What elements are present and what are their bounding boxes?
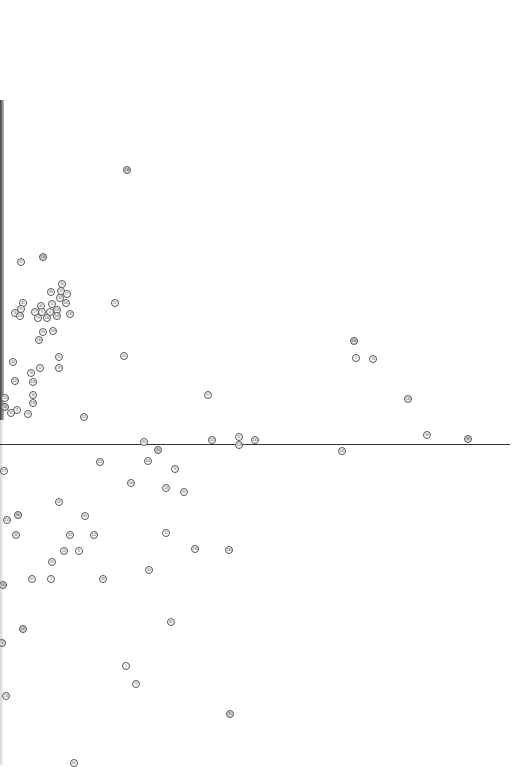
data-point-marker: 2 [47, 575, 55, 583]
data-point-marker: 133 [191, 545, 199, 553]
data-point-marker: 11 [162, 529, 170, 537]
data-point-marker: 95 [226, 710, 234, 718]
data-point-marker: 90 [145, 566, 153, 574]
data-point-marker: 12 [36, 364, 44, 372]
data-point-marker: 76 [369, 355, 377, 363]
data-point-marker: 72 [132, 680, 140, 688]
data-point-marker: 103 [49, 327, 57, 335]
data-point-marker: 38 [12, 531, 20, 539]
horizontal-reference-line [0, 444, 510, 445]
data-point-marker: 119 [235, 441, 243, 449]
data-point-marker: 122 [90, 531, 98, 539]
data-point-marker: 76 [27, 369, 35, 377]
data-point-marker: 110 [1, 394, 9, 402]
data-point-marker: 53 [162, 484, 170, 492]
data-point-marker: 5 [352, 354, 360, 362]
data-point-marker: 98 [464, 435, 472, 443]
data-point-marker: 137 [66, 310, 74, 318]
data-point-marker: 76 [171, 465, 179, 473]
data-point-marker: 76 [24, 410, 32, 418]
data-point-marker: 90 [39, 328, 47, 336]
data-point-marker: 141 [338, 447, 346, 455]
data-point-marker: 146 [43, 314, 51, 322]
data-point-marker: 34 [29, 391, 37, 399]
data-point-marker: 1 [122, 662, 130, 670]
data-point-marker: 40 [180, 488, 188, 496]
data-point-marker: 61 [28, 575, 36, 583]
data-point-marker: 174 [2, 692, 10, 700]
data-point-marker: 106 [53, 312, 61, 320]
data-point-marker: 138 [29, 399, 37, 407]
data-point-marker: 113 [208, 436, 216, 444]
data-point-marker: 58 [55, 498, 63, 506]
data-point-marker: 4 [0, 639, 6, 647]
data-point-marker: 117 [80, 413, 88, 421]
data-point-marker: 8 [75, 547, 83, 555]
data-point-marker: 37 [17, 258, 25, 266]
data-point-marker: 80 [81, 512, 89, 520]
data-point-marker: 19 [55, 364, 63, 372]
data-point-marker: 145 [251, 436, 259, 444]
data-point-marker: 27 [204, 391, 212, 399]
data-point-marker: 154 [350, 337, 358, 345]
data-point-marker: 83 [48, 558, 56, 566]
data-point-marker: 84 [154, 446, 162, 454]
data-point-marker: 86 [14, 511, 22, 519]
data-point-marker: 118 [16, 312, 24, 320]
data-point-marker: 61 [70, 759, 78, 767]
data-point-marker: 23 [60, 547, 68, 555]
data-point-marker: 21 [111, 299, 119, 307]
data-point-marker: 31 [7, 409, 15, 417]
data-point-marker: 177 [0, 467, 8, 475]
data-point-marker: 147 [19, 625, 27, 633]
data-point-marker: 135 [225, 546, 233, 554]
data-point-marker: 161 [62, 299, 70, 307]
data-point-marker: 102 [11, 377, 19, 385]
data-point-marker: 83 [66, 531, 74, 539]
data-point-marker: 100 [127, 479, 135, 487]
data-point-marker: 153 [3, 516, 11, 524]
data-point-marker: 160 [0, 581, 7, 589]
data-point-marker: 89 [47, 288, 55, 296]
data-point-marker: 161 [144, 457, 152, 465]
data-point-marker: 17 [63, 290, 71, 298]
data-point-marker: 39 [99, 575, 107, 583]
data-point-marker: 133 [404, 395, 412, 403]
data-point-marker: 24 [120, 352, 128, 360]
data-point-marker: 127 [96, 458, 104, 466]
data-point-marker: 154 [29, 378, 37, 386]
data-point-marker: 78 [34, 314, 42, 322]
data-point-marker: 168 [123, 166, 131, 174]
data-point-marker: 58 [423, 431, 431, 439]
data-point-marker: 130 [35, 336, 43, 344]
data-point-marker: 44 [9, 358, 17, 366]
data-point-marker: 31 [235, 433, 243, 441]
left-edge-shadow [0, 100, 4, 420]
data-point-marker: 158 [39, 253, 47, 261]
data-point-marker: 95 [140, 438, 148, 446]
data-point-marker: 85 [167, 618, 175, 626]
data-point-marker: 25 [55, 353, 63, 361]
